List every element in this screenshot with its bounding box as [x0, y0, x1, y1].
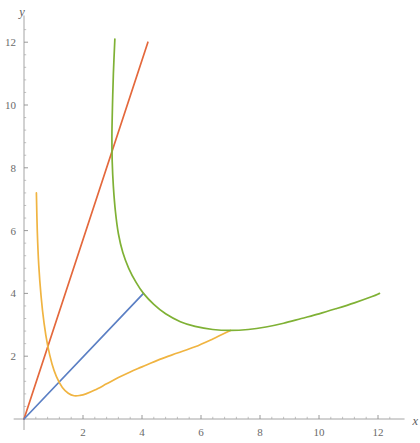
- tick-labels-group: 2468101224681012: [5, 36, 384, 438]
- curves-group: [24, 39, 379, 419]
- y-tick-label: 10: [5, 99, 17, 111]
- x-tick-label: 12: [373, 426, 384, 438]
- x-tick-label: 4: [139, 426, 145, 438]
- x-tick-label: 10: [314, 426, 326, 438]
- y-tick-label: 8: [11, 162, 17, 174]
- x-axis-label: x: [412, 414, 419, 428]
- chart-svg: 2468101224681012 y x: [0, 0, 420, 443]
- series-red-line: [24, 42, 148, 419]
- x-tick-label: 2: [80, 426, 86, 438]
- y-tick-label: 6: [11, 225, 17, 237]
- plot-container: 2468101224681012 y x: [0, 0, 420, 443]
- y-axis-label: y: [17, 5, 25, 19]
- x-tick-label: 8: [257, 426, 263, 438]
- x-tick-label: 6: [198, 426, 204, 438]
- y-tick-label: 2: [11, 350, 17, 362]
- y-tick-label: 4: [11, 287, 17, 299]
- series-green-curve: [112, 39, 380, 330]
- y-tick-label: 12: [5, 36, 16, 48]
